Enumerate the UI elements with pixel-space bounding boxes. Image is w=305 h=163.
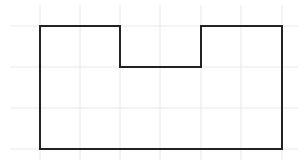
notched-rectangle-shape	[40, 26, 282, 149]
diagram-canvas	[0, 0, 305, 163]
grid-lines	[10, 5, 298, 160]
